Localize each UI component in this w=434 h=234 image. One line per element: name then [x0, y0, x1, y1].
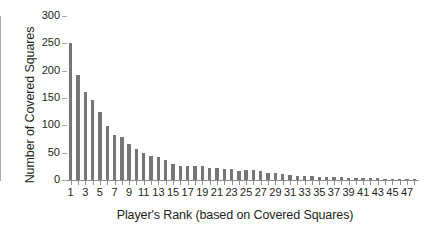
- bar-series: [67, 16, 419, 180]
- bar: [354, 178, 357, 180]
- bar: [391, 179, 394, 180]
- y-tick-label: 300: [30, 10, 60, 21]
- x-tick-mark: [129, 181, 130, 185]
- bar: [288, 175, 291, 180]
- x-tick-mark: [378, 181, 379, 185]
- bar: [76, 75, 79, 180]
- x-tick-mark: [385, 181, 386, 185]
- bar: [252, 170, 255, 180]
- x-tick-mark: [217, 181, 218, 185]
- bar: [296, 176, 299, 180]
- x-tick-mark: [188, 181, 189, 185]
- x-tick-mark: [122, 181, 123, 185]
- x-tick-mark: [195, 181, 196, 185]
- bar: [193, 166, 196, 180]
- bar: [84, 92, 87, 180]
- bar: [223, 169, 226, 180]
- x-tick-mark: [312, 181, 313, 185]
- y-tick-mark: [62, 98, 67, 99]
- x-tick-mark: [239, 181, 240, 185]
- x-tick-mark: [78, 181, 79, 185]
- x-tick-mark: [297, 181, 298, 185]
- x-axis-title: Player's Rank (based on Covered Squares): [40, 208, 430, 222]
- x-tick-mark: [268, 181, 269, 185]
- x-tick-mark: [93, 181, 94, 185]
- bar: [405, 179, 408, 180]
- bar: [142, 153, 145, 180]
- y-tick-label: 150: [30, 92, 60, 103]
- x-tick-mark: [319, 181, 320, 185]
- x-tick-mark: [151, 181, 152, 185]
- bar: [274, 173, 277, 180]
- bar: [201, 166, 204, 180]
- x-tick-mark: [356, 181, 357, 185]
- chart-figure: Number of Covered Squares 05010015020025…: [0, 0, 434, 234]
- bar: [310, 176, 313, 180]
- x-tick-mark: [349, 181, 350, 185]
- bar: [244, 170, 247, 180]
- bar: [376, 178, 379, 180]
- bar: [413, 179, 416, 180]
- x-tick-mark: [202, 181, 203, 185]
- bar: [361, 178, 364, 180]
- x-tick-mark: [232, 181, 233, 185]
- x-tick-mark: [341, 181, 342, 185]
- x-tick-mark: [283, 181, 284, 185]
- bar: [127, 144, 130, 180]
- y-tick-mark: [62, 125, 67, 126]
- x-tick-mark: [253, 181, 254, 185]
- bar: [325, 177, 328, 180]
- y-tick-label: 200: [30, 65, 60, 76]
- bar: [135, 149, 138, 180]
- x-tick-mark: [414, 181, 415, 185]
- bar: [281, 174, 284, 180]
- bar: [186, 166, 189, 180]
- bar: [106, 126, 109, 180]
- bar: [266, 173, 269, 180]
- x-tick-mark: [166, 181, 167, 185]
- bar: [208, 168, 211, 180]
- bar: [230, 169, 233, 180]
- bar: [237, 171, 240, 180]
- bar: [120, 137, 123, 180]
- x-tick-mark: [100, 181, 101, 185]
- y-tick-label: 50: [30, 147, 60, 158]
- x-tick-mark: [107, 181, 108, 185]
- bar: [340, 177, 343, 180]
- x-tick-mark: [115, 181, 116, 185]
- bar: [157, 157, 160, 181]
- x-tick-mark: [210, 181, 211, 185]
- bar: [383, 179, 386, 180]
- x-tick-mark: [85, 181, 86, 185]
- x-tick-mark: [334, 181, 335, 185]
- x-tick-label: 47: [396, 187, 418, 198]
- x-tick-mark: [261, 181, 262, 185]
- bar: [171, 164, 174, 180]
- bar: [113, 135, 116, 180]
- bar: [179, 166, 182, 180]
- y-tick-mark: [62, 180, 67, 181]
- bar: [347, 178, 350, 180]
- x-tick-mark: [158, 181, 159, 185]
- bar: [259, 171, 262, 180]
- x-tick-mark: [363, 181, 364, 185]
- bar: [149, 156, 152, 180]
- bar: [91, 100, 94, 180]
- y-tick-label: 100: [30, 119, 60, 130]
- y-tick-mark: [62, 71, 67, 72]
- bar: [318, 177, 321, 180]
- x-tick-mark: [400, 181, 401, 185]
- x-tick-mark: [275, 181, 276, 185]
- y-tick-mark: [62, 153, 67, 154]
- bar: [164, 160, 167, 180]
- y-axis-tick-labels: 050100150200250300: [30, 0, 60, 234]
- x-tick-mark: [246, 181, 247, 185]
- x-tick-mark: [370, 181, 371, 185]
- y-tick-label: 0: [30, 174, 60, 185]
- x-tick-mark: [305, 181, 306, 185]
- bar: [398, 179, 401, 180]
- x-axis-line: [67, 180, 419, 181]
- x-tick-mark: [224, 181, 225, 185]
- x-tick-mark: [407, 181, 408, 185]
- x-tick-mark: [290, 181, 291, 185]
